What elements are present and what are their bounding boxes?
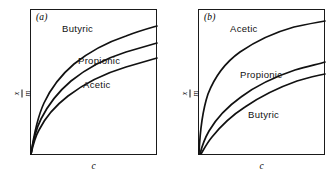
curve-label-butyric-b: Butyric [248, 110, 279, 120]
curve-label-propionic-b: Propionic [240, 70, 282, 80]
y-axis-denominator-a: m [23, 90, 32, 96]
panel-b: (b) Acetic Propionic Butyric x m c [168, 0, 336, 183]
curve-label-acetic-a: Acetic [83, 80, 111, 90]
y-axis-label-a: x m [13, 78, 31, 108]
y-axis-numerator-a: x [13, 91, 22, 95]
y-axis-label-b: x m [181, 78, 199, 108]
figure-root: (a) Butyric Propionic Acetic x m c (b) [0, 0, 336, 183]
x-axis-label-b: c [198, 162, 325, 172]
curve-acetic-a [31, 58, 157, 154]
curves-b [198, 9, 325, 155]
curve-acetic-b [199, 21, 325, 154]
curve-label-butyric-a: Butyric [62, 24, 93, 34]
curve-label-acetic-b: Acetic [230, 24, 258, 34]
x-axis-label-a: c [30, 162, 157, 172]
panel-a: (a) Butyric Propionic Acetic x m c [0, 0, 168, 183]
y-axis-denominator-b: m [191, 90, 200, 96]
y-axis-numerator-b: x [181, 91, 190, 95]
curve-label-propionic-a: Propionic [78, 56, 120, 66]
curve-butyric-a [31, 26, 157, 154]
